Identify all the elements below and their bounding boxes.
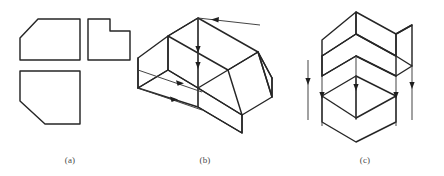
panel-c-projected-outline [294,0,444,150]
projected-hexagon-inner-right [356,96,396,118]
hex-top-rear-face [356,12,396,56]
panel-b-isometric-pictorial [110,0,290,150]
ortho-view-top-left [20,19,80,60]
top-rear-edge-arrow-icon [211,17,219,23]
hex-right-upper-edge [396,25,412,34]
iso-chamfer-face [228,52,272,115]
iso-top-rear-face [168,18,258,70]
figure-sheet: (a) (b) (c) [0,0,444,176]
caption-a: (a) [50,155,90,165]
hex-waist-left [322,56,356,76]
hex-waist-right [356,56,396,76]
projection-arrow-left-outer-icon [305,78,310,85]
iso-left-bottom-face [138,36,168,88]
projected-hexagon-outline [322,76,396,142]
caption-b: (b) [185,155,225,165]
iso-base-band [138,88,242,133]
hex-right-lower-edge [396,66,412,76]
arrow-line-base-lower [138,88,202,110]
arrow-line-base-upper [138,70,202,92]
hex-right-face [396,25,412,66]
hex-chamfer-face [322,12,356,56]
caption-c: (c) [345,155,385,165]
projection-arrow-right-outer-icon [409,82,414,89]
projection-arrow-center-icon [353,84,358,91]
ortho-view-bottom-left [20,71,80,124]
iso-left-rear-wall [168,18,198,88]
vertical-edge-arrow-lower-icon [195,62,200,69]
projected-hexagon-inner-left [322,96,356,118]
iso-top-to-chamfer-edge [198,70,228,88]
